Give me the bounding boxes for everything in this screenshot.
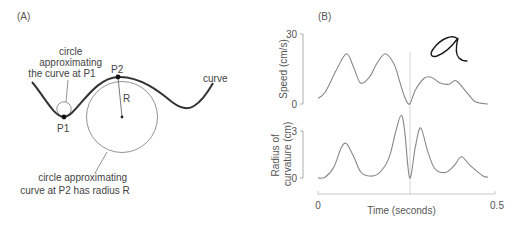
panel-b-label: (B) xyxy=(318,11,331,22)
annotation-p1-line: circle xyxy=(59,46,83,57)
curvature-chart: 3 0 Radius of curvature (cm) xyxy=(270,115,488,186)
p2-label: P2 xyxy=(111,64,124,75)
radius-line xyxy=(118,77,122,117)
annotation-p2-leader xyxy=(95,152,107,173)
radius-label: R xyxy=(123,93,130,104)
panel-a: (A) P1 P2 R curve circle approximating t… xyxy=(17,11,228,196)
point-p1 xyxy=(62,115,67,120)
figure: (A) P1 P2 R curve circle approximating t… xyxy=(0,0,518,228)
annotation-p1-line: approximating xyxy=(39,57,102,68)
curvature-y-axis-label-line: curvature (cm) xyxy=(282,122,293,186)
p1-label: P1 xyxy=(57,123,70,134)
x-tick-label: 0.5 xyxy=(490,200,504,211)
curvature-y-axis-label-line: Radius of xyxy=(270,134,281,176)
x-tick-label: 0 xyxy=(315,200,321,211)
speed-series-line xyxy=(318,54,488,104)
panel-a-label: (A) xyxy=(17,11,30,22)
curvature-y-axis-label: Radius of curvature (cm) xyxy=(270,122,293,186)
annotation-p2-line: circle approximating xyxy=(38,172,127,183)
annotation-p1-leader xyxy=(66,80,68,102)
curvature-series-line xyxy=(318,115,488,178)
point-p2 xyxy=(116,75,121,80)
annotation-p1-line: the curve at P1 xyxy=(28,68,96,79)
handwriting-a-icon xyxy=(431,37,467,61)
curve-label: curve xyxy=(203,73,228,84)
speed-y-axis-label: Speed (cm/s) xyxy=(278,39,289,98)
speed-y-tick-label: 30 xyxy=(286,29,298,40)
panel-b: (B) 30 0 Speed (cm/s) 3 0 Radius of xyxy=(270,11,504,216)
annotation-p2-line: curve at P2 has radius R xyxy=(20,185,130,196)
x-axis-label: Time (seconds) xyxy=(367,205,436,216)
circle-center-dot xyxy=(121,116,124,119)
annotation-p1: circle approximating the curve at P1 xyxy=(28,46,104,79)
annotation-p2: circle approximating curve at P2 has rad… xyxy=(20,172,130,196)
speed-y-tick-label: 0 xyxy=(291,99,297,110)
